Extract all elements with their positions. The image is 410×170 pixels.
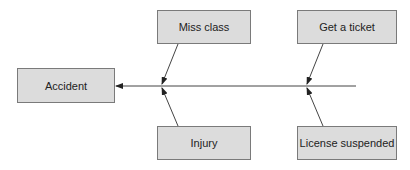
cause-label: Miss class — [179, 21, 230, 33]
cause-label: License suspended — [300, 137, 395, 149]
get-ticket-arrow — [307, 44, 323, 84]
cause-box-get-a-ticket: Get a ticket — [297, 10, 397, 44]
cause-box-miss-class: Miss class — [157, 10, 251, 44]
effect-label: Accident — [45, 80, 87, 92]
cause-effect-diagram: Accident Miss class Get a ticket Injury … — [0, 0, 410, 170]
miss-class-arrow — [162, 44, 178, 84]
injury-arrow — [162, 88, 178, 126]
cause-label: Get a ticket — [319, 21, 375, 33]
cause-box-injury: Injury — [157, 126, 251, 160]
cause-box-license-suspended: License suspended — [297, 126, 397, 160]
license-suspended-arrow — [307, 88, 323, 126]
effect-box-accident: Accident — [17, 68, 115, 103]
cause-label: Injury — [191, 137, 218, 149]
